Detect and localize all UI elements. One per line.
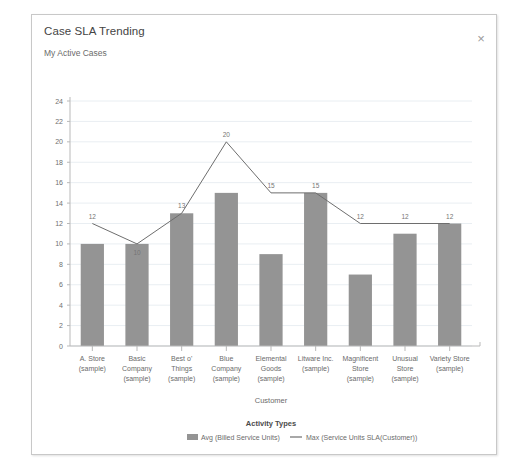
y-axis-tick-label: 24 (55, 98, 63, 105)
y-axis-tick-label: 12 (55, 220, 63, 227)
data-point-label: 10 (133, 249, 141, 256)
y-axis-tick-label: 8 (59, 261, 63, 268)
data-point-label: 12 (357, 213, 365, 220)
legend-label-avg: Avg (Billed Service Units) (201, 434, 280, 442)
y-axis-tick-label: 16 (55, 179, 63, 186)
x-axis-category-label: (sample) (391, 375, 418, 383)
y-axis-tick-label: 14 (55, 200, 63, 207)
y-axis-tick-label: 18 (55, 159, 63, 166)
y-axis-tick-label: 22 (55, 118, 63, 125)
x-axis-category-label: (sample) (168, 375, 195, 383)
bar[interactable] (259, 254, 282, 346)
data-point-label: 20 (223, 131, 231, 138)
view-subtitle: My Active Cases (44, 48, 107, 58)
x-axis-category-label: A. Store (80, 355, 105, 362)
trend-line[interactable] (92, 142, 449, 244)
bar[interactable] (81, 244, 104, 346)
page-title: Case SLA Trending (44, 25, 145, 37)
y-axis-tick-label: 4 (59, 302, 63, 309)
bar[interactable] (215, 193, 238, 346)
y-axis-tick-label: 0 (59, 343, 63, 350)
data-point-label: 15 (267, 182, 275, 189)
x-axis-category-label: Elemental (255, 355, 287, 362)
close-icon[interactable]: × (474, 32, 488, 46)
legend-label-max: Max (Service Units SLA(Customer)) (306, 434, 417, 442)
bar[interactable] (393, 234, 416, 346)
bar[interactable] (170, 213, 193, 346)
x-axis-category-label: Litware Inc. (298, 355, 334, 362)
x-axis-category-label: (sample) (79, 365, 106, 373)
x-axis-category-label: (sample) (436, 365, 463, 373)
y-axis-tick-label: 6 (59, 281, 63, 288)
x-axis-category-label: Things (171, 365, 193, 373)
x-axis-category-label: Variety Store (430, 355, 470, 363)
x-axis-category-label: (sample) (257, 375, 284, 383)
data-point-label: 15 (312, 182, 320, 189)
x-axis-category-label: (sample) (347, 375, 374, 383)
x-axis-category-label: Blue (219, 355, 233, 362)
data-point-label: 12 (401, 213, 409, 220)
x-axis-title: Customer (255, 396, 288, 405)
x-axis-category-label: Company (211, 365, 241, 373)
x-axis-category-label: Unusual (392, 355, 418, 362)
case-sla-trending-dialog: Case SLA Trending × My Active Cases 0246… (31, 14, 497, 455)
x-axis-category-label: (sample) (123, 375, 150, 383)
x-axis-category-label: Goods (261, 365, 282, 372)
bar[interactable] (438, 224, 461, 347)
line-series (92, 142, 449, 244)
sla-trending-chart: 024681012141618202224 121013201515121212… (32, 71, 496, 454)
chart-legend: Activity TypesAvg (Billed Service Units)… (187, 419, 417, 442)
y-axis-tick-label: 20 (55, 138, 63, 145)
bar[interactable] (349, 275, 372, 346)
bar[interactable] (304, 193, 327, 346)
data-point-label: 12 (89, 213, 97, 220)
legend-swatch-bar[interactable] (187, 434, 198, 440)
x-axis-category-label: Store (397, 365, 414, 372)
x-axis-category-label: (sample) (213, 375, 240, 383)
data-point-label: 13 (178, 202, 186, 209)
chart-canvas: 024681012141618202224 121013201515121212… (32, 71, 496, 454)
x-axis-category-label: Magnificent (342, 355, 378, 363)
x-axis-category-label: (sample) (302, 365, 329, 373)
bar[interactable] (125, 244, 148, 346)
x-axis-category-label: Basic (128, 355, 146, 362)
x-axis-category-label: Company (122, 365, 152, 373)
y-axis-tick-label: 2 (59, 322, 63, 329)
legend-title: Activity Types (246, 419, 296, 428)
y-axis: 024681012141618202224 (55, 97, 70, 350)
x-axis-category-label: Best o' (171, 355, 192, 362)
x-axis-labels: A. Store(sample)BasicCompany(sample)Best… (79, 355, 470, 405)
x-axis-category-label: Store (352, 365, 369, 372)
y-axis-tick-label: 10 (55, 240, 63, 247)
data-point-label: 12 (446, 213, 454, 220)
